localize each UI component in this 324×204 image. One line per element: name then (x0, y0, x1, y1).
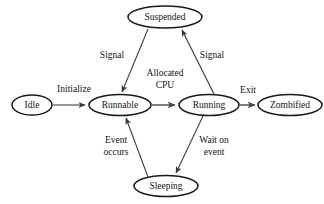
node-label-runnable: Runnable (102, 100, 138, 110)
edge-running-to-suspended: Signal (182, 30, 224, 94)
edge-line-sleeping-to-runnable (126, 118, 148, 177)
node-label-running: Running (193, 100, 226, 110)
edge-label-allocated: Allocated (147, 68, 184, 78)
node-label-zombified: Zombified (270, 100, 310, 110)
edge-suspended-to-runnable: Signal (100, 29, 148, 92)
edge-label-cpu: CPU (156, 80, 175, 90)
edge-label-occurs: occurs (104, 147, 129, 157)
edge-running-to-zombified: Exit (240, 85, 256, 105)
edge-sleeping-to-runnable: Event occurs (104, 118, 148, 177)
edge-label-signal-right: Signal (200, 50, 225, 60)
node-label-idle: Idle (25, 100, 40, 110)
edge-running-to-sleeping: Wait on event (176, 116, 229, 173)
node-sleeping[interactable]: Sleeping (134, 176, 198, 197)
node-label-sleeping: Sleeping (149, 181, 182, 191)
edge-label-exit: Exit (240, 85, 256, 95)
node-running[interactable]: Running (179, 95, 239, 116)
edge-label-signal-left: Signal (100, 50, 125, 60)
edge-label-wait-on: Wait on (199, 135, 229, 145)
node-label-suspended: Suspended (144, 12, 185, 22)
edge-runnable-to-running: Allocated CPU (147, 68, 184, 105)
edge-idle-to-runnable: Initialize (53, 84, 91, 105)
process-state-diagram: Initialize Allocated CPU Exit Signal Sig… (0, 0, 324, 204)
node-idle[interactable]: Idle (12, 95, 52, 115)
node-runnable[interactable]: Runnable (89, 95, 151, 116)
edge-label-event: event (204, 147, 225, 157)
state-diagram-canvas: Initialize Allocated CPU Exit Signal Sig… (0, 0, 324, 204)
edge-line-running-to-suspended (182, 30, 214, 94)
node-suspended[interactable]: Suspended (128, 6, 202, 28)
edge-label-event-word: Event (105, 135, 128, 145)
edge-line-suspended-to-runnable (122, 29, 148, 92)
node-zombified[interactable]: Zombified (258, 95, 322, 116)
edge-label-initialize: Initialize (57, 84, 91, 94)
